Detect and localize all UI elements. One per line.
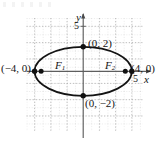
covertex-bottom-label: (0, −2)	[85, 98, 115, 109]
focus-left-letter: F	[55, 59, 62, 71]
vertex-right-label: (4, 0)	[131, 63, 155, 74]
focus-right-point	[123, 69, 128, 74]
ellipse-figure: y x 5 5 (−4, 0) (4, 0) (0, 2) (0, −2) F1…	[0, 0, 167, 143]
covertex-top-point	[81, 44, 86, 49]
focus-left-subscript: 1	[62, 64, 66, 72]
focus-right-subscript: 2	[112, 64, 116, 72]
focus-right-label: F2	[105, 60, 115, 72]
focus-left-point	[39, 69, 44, 74]
x-tick-label-5: 5	[133, 74, 138, 84]
y-axis-arrow	[81, 13, 85, 19]
grid-area	[27, 18, 143, 131]
covertex-top-label: (0, 2)	[88, 38, 112, 49]
focus-left-label: F1	[55, 60, 65, 72]
vertex-left-label: (−4, 0)	[1, 63, 31, 74]
focus-right-letter: F	[105, 59, 112, 71]
vertex-left-point	[32, 69, 37, 74]
y-tick-label-5: 5	[74, 21, 79, 31]
x-axis-label: x	[144, 74, 149, 85]
